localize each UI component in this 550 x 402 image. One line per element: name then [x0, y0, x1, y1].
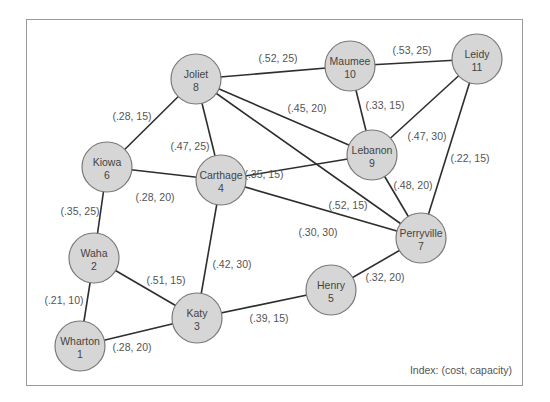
node-wharton: Wharton1: [55, 321, 105, 371]
node-name: Leidy: [464, 48, 490, 60]
node-henry: Henry5: [306, 265, 356, 315]
edge-label: (.22, 15): [450, 152, 489, 164]
edge-label: (.42, 30): [212, 258, 251, 270]
node-carthage: Carthage4: [196, 155, 246, 205]
edge-label: (.35, 25): [60, 205, 99, 217]
node-name: Perryville: [399, 227, 442, 239]
node-joliet: Joliet8: [171, 54, 221, 104]
edge-label: (.39, 15): [249, 312, 288, 324]
edge-label: (.21, 10): [44, 294, 83, 306]
node-name: Wharton: [60, 335, 100, 347]
node-perryville: Perryville7: [396, 213, 446, 263]
node-name: Waha: [80, 247, 107, 259]
node-leidy: Leidy11: [452, 34, 502, 84]
node-number: 6: [104, 169, 110, 181]
node-number: 11: [472, 61, 483, 73]
edge-label: (.47, 30): [407, 130, 446, 142]
node-name: Katy: [186, 307, 208, 319]
edge-label: (.32, 20): [365, 271, 404, 283]
edge-label: (.52, 15): [328, 199, 367, 211]
edge-label: (.45, 20): [287, 102, 326, 114]
edge-label: (.53, 25): [392, 44, 431, 56]
legend-index: Index: (cost, capacity): [410, 364, 512, 376]
node-number: 1: [77, 348, 83, 360]
node-number: 8: [193, 81, 199, 93]
edge-leidy-perryville: [421, 59, 477, 238]
edge-label: (.35, 15): [244, 168, 283, 180]
node-katy: Katy3: [172, 293, 222, 343]
node-number: 7: [418, 240, 424, 252]
edge-label: (.52, 25): [258, 52, 297, 64]
node-name: Joliet: [184, 68, 209, 80]
edge-label: (.28, 20): [135, 191, 174, 203]
edge-labels-layer: (.52, 25)(.53, 25)(.28, 15)(.47, 25)(.45…: [44, 44, 489, 353]
node-number: 10: [344, 68, 356, 80]
edge-label: (.28, 20): [112, 341, 151, 353]
node-number: 4: [218, 182, 224, 194]
node-name: Lebanon: [352, 144, 393, 156]
node-lebanon: Lebanon9: [347, 130, 397, 180]
node-maumee: Maumee10: [325, 41, 375, 91]
node-number: 5: [328, 292, 334, 304]
node-name: Kiowa: [93, 156, 122, 168]
node-kiowa: Kiowa6: [82, 142, 132, 192]
edge-label: (.28, 15): [112, 110, 151, 122]
node-number: 9: [369, 157, 375, 169]
edge-label: (.47, 25): [170, 140, 209, 152]
node-name: Henry: [317, 279, 346, 291]
node-number: 3: [194, 320, 200, 332]
edge-label: (.48, 20): [393, 179, 432, 191]
network-graph: (.52, 25)(.53, 25)(.28, 15)(.47, 25)(.45…: [0, 0, 550, 402]
edge-label: (.30, 30): [298, 226, 337, 238]
edge-label: (.33, 15): [365, 99, 404, 111]
node-name: Maumee: [330, 55, 371, 67]
node-name: Carthage: [199, 169, 242, 181]
node-waha: Waha2: [69, 233, 119, 283]
node-number: 2: [91, 260, 97, 272]
edge-label: (.51, 15): [146, 274, 185, 286]
